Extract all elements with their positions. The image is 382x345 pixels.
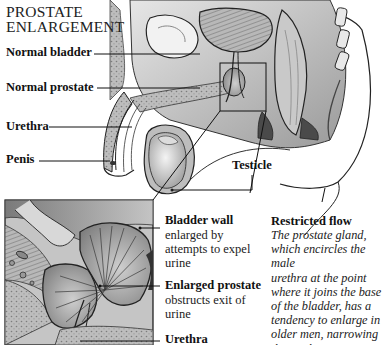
callout-line: The prostate gland,: [271, 228, 382, 242]
callout-line: the urethra. As a result,: [271, 342, 382, 345]
callout-line: which encircles the male: [271, 242, 382, 270]
bladder-wall-desc-2: attempts to expel: [165, 242, 250, 256]
enlarged-prostate-desc-2: urine: [165, 307, 261, 321]
label-urethra: Urethra: [6, 119, 49, 134]
label-testicle: Testicle: [232, 158, 272, 173]
enlarged-prostate-desc-1: obstructs exit of: [165, 293, 261, 307]
label-normal-prostate: Normal prostate: [6, 80, 94, 95]
label-enlarged-prostate: Enlarged prostate: [165, 278, 261, 293]
inset-enlarged-prostate: Enlarged prostate obstructs exit of urin…: [165, 278, 261, 321]
label-inset-urethra: Urethra: [165, 332, 208, 345]
callout-line: of the bladder, has a: [271, 299, 382, 313]
diagram-title: PROSTATE ENLARGEMENT: [6, 4, 124, 34]
inset-bladder-wall: Bladder wall enlarged by attempts to exp…: [165, 213, 250, 270]
callout-body: The prostate gland, which encircles the …: [271, 228, 382, 345]
bladder-wall-desc-1: enlarged by: [165, 228, 250, 242]
callout-line: urethra at the point: [271, 271, 382, 285]
callout-line: where it joins the base: [271, 285, 382, 299]
inset-illustration: [5, 200, 153, 345]
bladder-wall-desc-3: urine: [165, 256, 250, 270]
title-line-1: PROSTATE: [6, 4, 124, 19]
label-penis: Penis: [6, 152, 34, 167]
title-line-2: ENLARGEMENT: [6, 19, 124, 34]
callout-line: tendency to enlarge in: [271, 313, 382, 327]
label-bladder-wall: Bladder wall: [165, 213, 250, 228]
label-normal-bladder: Normal bladder: [6, 45, 92, 60]
callout-title: Restricted flow: [271, 214, 352, 229]
callout-line: older men, narrowing: [271, 327, 382, 341]
